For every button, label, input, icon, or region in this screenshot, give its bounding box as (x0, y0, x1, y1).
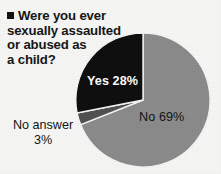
chart-title-line-4: a child? (7, 53, 139, 68)
pie-chart-figure: Were you ever sexually assaulted or abus… (0, 0, 221, 174)
pie-label-yes: Yes 28% (87, 75, 138, 88)
chart-title-line-1: Were you ever (18, 8, 106, 23)
pie-label-no: No 69% (139, 111, 184, 124)
chart-title-line-2: sexually assaulted (7, 24, 139, 39)
chart-title-line-3: or abused as (7, 38, 139, 53)
pie-label-no-answer: No answer 3% (6, 118, 80, 148)
pie-label-no-answer-line-1: No answer (6, 118, 80, 133)
chart-title: Were you ever sexually assaulted or abus… (7, 9, 139, 67)
square-bullet-icon (7, 12, 14, 19)
pie-label-no-answer-line-2: 3% (6, 133, 80, 148)
